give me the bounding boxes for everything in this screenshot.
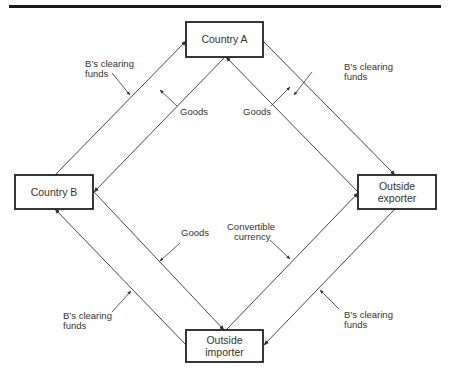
node-country-b: Country B xyxy=(15,175,93,209)
flow-importer-to-exporter xyxy=(226,193,358,330)
label-b-to-importer: Goods xyxy=(181,227,209,238)
leader-a-to-b xyxy=(160,90,177,106)
node-label: Outside xyxy=(206,334,242,346)
svg-text:funds: funds xyxy=(63,320,86,331)
node-label: Country A xyxy=(201,33,247,45)
node-outside-exporter: Outside exporter xyxy=(358,175,436,209)
leader-b-to-a xyxy=(112,73,130,95)
clearing-funds-diagram: Country A Country B Outside exporter Out… xyxy=(0,0,449,376)
leader-exporter-to-importer xyxy=(320,290,339,309)
node-country-a: Country A xyxy=(186,22,263,57)
svg-text:funds: funds xyxy=(85,68,108,79)
node-label: exporter xyxy=(378,192,417,204)
node-outside-importer: Outside importer xyxy=(186,330,263,362)
node-label: Outside xyxy=(379,180,415,192)
leader-exporter-to-a xyxy=(271,87,290,106)
svg-text:Goods: Goods xyxy=(243,106,271,117)
label-a-to-b: Goods xyxy=(180,106,208,117)
svg-text:funds: funds xyxy=(344,319,367,330)
label-a-to-exporter: B’s clearing funds xyxy=(344,61,393,82)
leader-importer-to-exporter xyxy=(270,240,290,259)
leader-b-to-importer xyxy=(160,243,180,261)
label-importer-to-b: B’s clearing funds xyxy=(63,310,112,331)
flow-b-to-importer xyxy=(94,192,224,330)
svg-text:funds: funds xyxy=(344,71,367,82)
leader-importer-to-b xyxy=(112,291,131,312)
svg-text:currency: currency xyxy=(234,231,271,242)
svg-text:Goods: Goods xyxy=(181,227,209,238)
label-exporter-to-a: Goods xyxy=(243,106,271,117)
node-label: importer xyxy=(205,346,244,358)
flow-a-to-b xyxy=(94,57,225,192)
svg-text:Goods: Goods xyxy=(180,106,208,117)
node-label: Country B xyxy=(31,186,78,198)
label-exporter-to-importer: B’s clearing funds xyxy=(344,309,393,330)
label-importer-to-exporter: Convertible currency xyxy=(227,221,275,242)
flow-exporter-to-a xyxy=(226,57,358,192)
flow-exporter-to-importer xyxy=(264,209,395,345)
label-b-to-a: B’s clearing funds xyxy=(85,58,134,79)
